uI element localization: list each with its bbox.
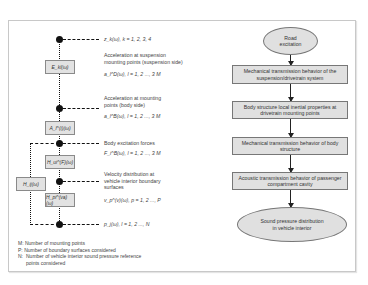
annot-vel-eq: v_p^(v)(ω), p = 1, 2 ..., P xyxy=(104,197,161,204)
node-force xyxy=(56,140,63,147)
arrow-3 xyxy=(290,119,291,137)
arrow-5 xyxy=(290,190,291,207)
annot-body-eq: a_l^B(ω), l = 1, 2 ..., 3 M xyxy=(104,113,160,120)
block-E: E_kl(ω) xyxy=(45,60,75,74)
legend: M: Number of mounting points P: Number o… xyxy=(18,240,178,266)
leader-body-accel xyxy=(63,108,99,109)
node-z xyxy=(56,36,63,43)
step-2: Body structure local inertial properties… xyxy=(232,101,348,119)
step-1: Mechanical transmission behavior of the … xyxy=(232,65,348,84)
step-3: Mechanical transmission behavior of body… xyxy=(232,137,348,155)
annot-susp-eq: a_l^D(ω), l = 1, 2 ..., 3 M xyxy=(104,71,161,78)
arrow-1 xyxy=(290,55,291,65)
loop-top-line xyxy=(30,143,59,144)
leader-velocity xyxy=(63,181,99,182)
annot-body-text: Acceleration at mounting points (body si… xyxy=(104,95,168,108)
block-H-pi: H_pi^(va)(ω) xyxy=(45,193,75,207)
legend-item-M: M: Number of mounting points xyxy=(18,240,178,247)
annot-force-text: Body excitation forces xyxy=(104,140,155,147)
legend-item-P: P: Number of boundary surfaces considere… xyxy=(18,247,178,254)
node-pressure xyxy=(56,221,63,228)
block-H-ui: H_ui^(F)(ω) xyxy=(45,155,75,169)
arrow-4 xyxy=(290,155,291,172)
node-velocity xyxy=(56,178,63,185)
end-node: Sound pressure distribution in vehicle i… xyxy=(237,207,347,242)
annot-z-eq: z_k(ω), k = 1, 2, 3, 4 xyxy=(104,36,151,43)
annot-pres-eq: p_j(ω), l = 1, 2 ..., N xyxy=(104,221,149,228)
annot-susp-text: Acceleration at suspension mounting poin… xyxy=(104,52,184,65)
loop-bottom-line xyxy=(30,224,59,225)
start-node: Road excitation xyxy=(263,27,318,55)
annot-vel-text: Velocity distribution at vehicle interio… xyxy=(104,171,166,191)
step-4: Acoustic transmission behavior of passen… xyxy=(232,172,348,190)
arrow-2 xyxy=(290,84,291,101)
legend-item-N: N:Number of vehicle interior sound press… xyxy=(18,253,178,266)
block-A: A_l^(i)(ω) xyxy=(45,121,75,135)
leader-force xyxy=(63,143,99,144)
leader-z xyxy=(63,39,99,40)
annot-force-eq: F_i^B(ω), l = 1, 2 ..., 3 M xyxy=(104,150,161,157)
node-body-accel xyxy=(56,105,63,112)
leader-pressure xyxy=(63,224,99,225)
block-H-ij: H_ij(ω) xyxy=(16,177,46,191)
